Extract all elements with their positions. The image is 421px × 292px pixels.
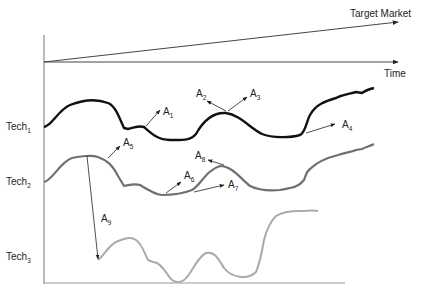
a4-label: A4 xyxy=(342,119,353,132)
tech1-label: Tech1 xyxy=(6,121,31,134)
a3-label: A3 xyxy=(250,88,261,101)
target-market-arrow xyxy=(44,22,398,62)
a3-arrow xyxy=(228,97,247,111)
a8-label: A8 xyxy=(195,150,206,163)
a2-label: A2 xyxy=(196,88,207,101)
a8-arrow xyxy=(208,160,224,165)
a6-arrow xyxy=(166,182,181,193)
a4-arrow xyxy=(306,124,335,133)
tech1-curve xyxy=(44,88,374,140)
a7-arrow xyxy=(194,185,224,192)
a9-label: A9 xyxy=(101,213,112,226)
tech3-label: Tech3 xyxy=(6,251,31,264)
time-label: Time xyxy=(384,68,406,79)
technology-trajectory-diagram: Target Market Time Tech1 Tech2 Tech3 A1 … xyxy=(0,0,421,292)
a5-arrow xyxy=(108,146,120,158)
tech3-curve xyxy=(98,211,318,282)
target-market-label: Target Market xyxy=(350,8,411,19)
a1-arrow xyxy=(146,110,160,126)
a6-label: A6 xyxy=(184,170,195,183)
a2-arrow xyxy=(207,101,226,111)
a7-label: A7 xyxy=(228,179,239,192)
tech2-curve xyxy=(44,144,374,195)
tech2-label: Tech2 xyxy=(6,176,31,189)
a1-label: A1 xyxy=(163,106,174,119)
a5-label: A5 xyxy=(123,137,134,150)
a9-arrow xyxy=(87,156,98,259)
